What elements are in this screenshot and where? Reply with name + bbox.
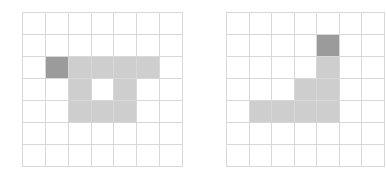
grid-cell xyxy=(272,13,295,35)
grid-cell xyxy=(114,79,137,101)
grid-cell xyxy=(114,13,137,35)
grid-cell xyxy=(46,101,69,123)
grid-cell xyxy=(250,13,273,35)
grid-cell xyxy=(317,35,340,57)
grid-cell xyxy=(340,101,363,123)
grid-cell xyxy=(92,145,115,167)
grid-cell xyxy=(295,101,318,123)
grid-cell xyxy=(227,57,250,79)
grid-cell xyxy=(46,35,69,57)
grid-cell xyxy=(340,13,363,35)
grid-cell xyxy=(46,79,69,101)
grid-cell xyxy=(92,79,115,101)
grid-cell xyxy=(272,35,295,57)
grid-cell xyxy=(227,13,250,35)
grid-cell xyxy=(160,35,183,57)
grid-cell xyxy=(92,13,115,35)
grid-cell xyxy=(272,101,295,123)
grid-cell xyxy=(92,101,115,123)
grid-cell xyxy=(23,123,46,145)
grid-cell xyxy=(250,145,273,167)
grid-cell xyxy=(92,123,115,145)
grid-cell xyxy=(46,57,69,79)
grid-cell xyxy=(317,123,340,145)
right-grid xyxy=(226,12,385,167)
grid-cell xyxy=(137,57,160,79)
left-grid xyxy=(22,12,183,167)
grid-cell xyxy=(92,35,115,57)
grid-cell xyxy=(250,57,273,79)
grid-cell xyxy=(340,145,363,167)
grid-cell xyxy=(137,13,160,35)
grid-cell xyxy=(272,79,295,101)
grid-cell xyxy=(317,101,340,123)
grid-cell xyxy=(362,35,385,57)
grid-cell xyxy=(137,123,160,145)
grid-cell xyxy=(227,35,250,57)
grid-cell xyxy=(160,145,183,167)
grid-cell xyxy=(340,123,363,145)
grid-cell xyxy=(23,13,46,35)
grid-cell xyxy=(227,123,250,145)
grid-cell xyxy=(295,13,318,35)
grid-cell xyxy=(69,57,92,79)
grid-cell xyxy=(114,101,137,123)
grid-cell xyxy=(340,57,363,79)
grid-cell xyxy=(160,13,183,35)
grid-cell xyxy=(295,79,318,101)
grid-cell xyxy=(250,101,273,123)
grid-cell xyxy=(160,101,183,123)
grid-cell xyxy=(295,145,318,167)
grid-cell xyxy=(137,145,160,167)
grid-cell xyxy=(362,79,385,101)
grid-cell xyxy=(272,123,295,145)
grid-cell xyxy=(295,57,318,79)
grid-cell xyxy=(114,123,137,145)
grid-cell xyxy=(362,57,385,79)
grid-cell xyxy=(46,13,69,35)
grid-cell xyxy=(362,13,385,35)
grid-cell xyxy=(160,123,183,145)
grid-cell xyxy=(23,35,46,57)
grid-cell xyxy=(69,145,92,167)
grid-cell xyxy=(114,35,137,57)
grid-cell xyxy=(23,145,46,167)
grid-cell xyxy=(272,57,295,79)
grid-cell xyxy=(317,57,340,79)
grid-cell xyxy=(295,35,318,57)
grid-cell xyxy=(137,79,160,101)
grid-cell xyxy=(362,145,385,167)
grid-cell xyxy=(69,35,92,57)
grid-cell xyxy=(160,79,183,101)
grid-cell xyxy=(46,145,69,167)
grid-cell xyxy=(227,101,250,123)
grid-cell xyxy=(114,57,137,79)
grid-cell xyxy=(23,101,46,123)
grid-cell xyxy=(317,145,340,167)
grid-cell xyxy=(250,123,273,145)
grid-cell xyxy=(69,79,92,101)
grid-cell xyxy=(69,101,92,123)
grid-cell xyxy=(272,145,295,167)
grid-cell xyxy=(69,123,92,145)
grid-cell xyxy=(137,101,160,123)
grid-cell xyxy=(227,145,250,167)
grid-cell xyxy=(23,79,46,101)
grid-cell xyxy=(362,101,385,123)
grid-cell xyxy=(23,57,46,79)
grid-cell xyxy=(362,123,385,145)
grid-cell xyxy=(114,145,137,167)
grid-cell xyxy=(92,57,115,79)
grid-cell xyxy=(295,123,318,145)
grid-cell xyxy=(46,123,69,145)
grid-cell xyxy=(227,79,250,101)
grid-cell xyxy=(340,35,363,57)
grid-cell xyxy=(69,13,92,35)
grid-cell xyxy=(250,79,273,101)
grid-cell xyxy=(250,35,273,57)
grid-cell xyxy=(340,79,363,101)
grid-cell xyxy=(160,57,183,79)
grid-cell xyxy=(317,13,340,35)
grid-cell xyxy=(137,35,160,57)
grid-cell xyxy=(317,79,340,101)
